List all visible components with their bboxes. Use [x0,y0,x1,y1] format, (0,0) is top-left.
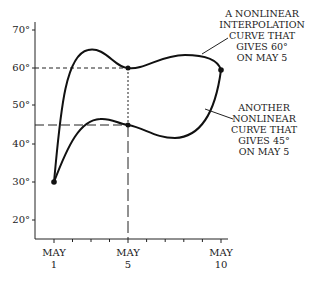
svg-text:GIVES 45°: GIVES 45° [238,135,290,146]
point-may5-60 [126,66,131,71]
chart: 20° 30° 40° 50° 60° 70° MAY 1 MAY 5 MAY … [0,0,309,283]
svg-text:40°: 40° [12,138,30,149]
svg-text:NONLINEAR: NONLINEAR [232,113,297,124]
curve-60 [54,50,221,182]
svg-text:CURVE THAT: CURVE THAT [229,30,296,41]
svg-text:50°: 50° [12,99,30,110]
svg-text:INTERPOLATION: INTERPOLATION [219,19,305,30]
svg-text:ON MAY 5: ON MAY 5 [237,52,288,63]
curve-45 [54,70,221,182]
svg-text:5: 5 [125,259,131,270]
svg-text:ANOTHER: ANOTHER [237,102,291,113]
svg-text:30°: 30° [12,176,30,187]
point-may1 [51,179,57,185]
svg-text:ON MAY 5: ON MAY 5 [239,146,290,157]
svg-text:A NONLINEAR: A NONLINEAR [224,8,299,19]
svg-text:60°: 60° [12,62,30,73]
svg-text:CURVE THAT: CURVE THAT [231,124,298,135]
annotation-lower: ANOTHER NONLINEAR CURVE THAT GIVES 45° O… [231,102,298,157]
y-tick-labels: 20° 30° 40° 50° 60° 70° [12,24,30,225]
svg-text:70°: 70° [12,24,30,35]
x-ticks [54,239,221,243]
point-may10 [218,67,224,73]
svg-text:20°: 20° [12,214,30,225]
x-tick-labels: MAY 1 MAY 5 MAY 10 [42,247,233,270]
annotation-upper: A NONLINEAR INTERPOLATION CURVE THAT GIV… [219,8,305,63]
svg-text:1: 1 [51,259,57,270]
point-may5-45 [126,123,131,128]
svg-text:GIVES 60°: GIVES 60° [236,41,288,52]
svg-text:MAY: MAY [116,247,140,258]
svg-text:MAY: MAY [42,247,66,258]
svg-text:10: 10 [215,259,228,270]
svg-text:MAY: MAY [209,247,233,258]
annotation-leader-upper [202,38,228,54]
